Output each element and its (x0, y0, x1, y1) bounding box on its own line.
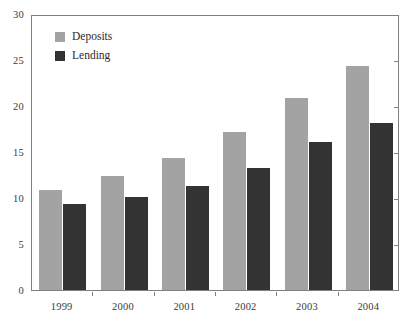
y-axis: 051015202530 (0, 0, 31, 322)
bar-deposits-2001 (162, 158, 185, 290)
legend-swatch-icon (55, 32, 65, 42)
x-tick-label-2003: 2003 (296, 302, 318, 313)
bar-lending-1999 (63, 204, 86, 290)
x-tick-label-2002: 2002 (235, 302, 257, 313)
y-tick-mark-right (394, 107, 398, 108)
x-tick-label-1999: 1999 (51, 302, 73, 313)
y-tick-mark-right (394, 153, 398, 154)
x-tick-label-2000: 2000 (112, 302, 134, 313)
y-tick-label: 0 (19, 286, 24, 297)
x-tick-label-2001: 2001 (173, 302, 195, 313)
y-tick-label: 15 (13, 148, 24, 159)
bar-deposits-2000 (101, 176, 124, 290)
bar-deposits-2004 (346, 66, 369, 290)
x-tick-mark (92, 292, 93, 296)
chart-legend: DepositsLending (55, 29, 175, 67)
x-tick-mark (215, 292, 216, 296)
legend-item-label: Lending (72, 50, 110, 62)
x-tick-mark (276, 292, 277, 296)
legend-item-label: Deposits (72, 31, 112, 43)
bar-lending-2000 (125, 197, 148, 290)
x-tick-mark (338, 292, 339, 296)
bar-chart-figure: 051015202530 199920002001200220032004 De… (0, 0, 412, 322)
y-tick-label: 5 (19, 240, 24, 251)
y-tick-label: 30 (13, 10, 24, 21)
legend-swatch-icon (55, 51, 65, 61)
x-tick-mark (154, 292, 155, 296)
bar-lending-2004 (370, 123, 393, 290)
bar-deposits-1999 (39, 190, 62, 290)
y-tick-label: 25 (13, 56, 24, 67)
bar-deposits-2003 (285, 98, 308, 290)
x-tick-label-2004: 2004 (357, 302, 379, 313)
bar-lending-2002 (247, 168, 270, 290)
legend-item-lending: Lending (55, 48, 175, 64)
bar-lending-2001 (186, 186, 209, 290)
y-tick-mark-right (394, 199, 398, 200)
y-tick-mark-right (394, 61, 398, 62)
x-axis: 199920002001200220032004 (31, 292, 399, 322)
legend-item-deposits: Deposits (55, 29, 175, 45)
y-tick-label: 10 (13, 194, 24, 205)
y-tick-label: 20 (13, 102, 24, 113)
bar-deposits-2002 (223, 132, 246, 290)
bar-lending-2003 (309, 142, 332, 290)
y-tick-mark-right (394, 245, 398, 246)
